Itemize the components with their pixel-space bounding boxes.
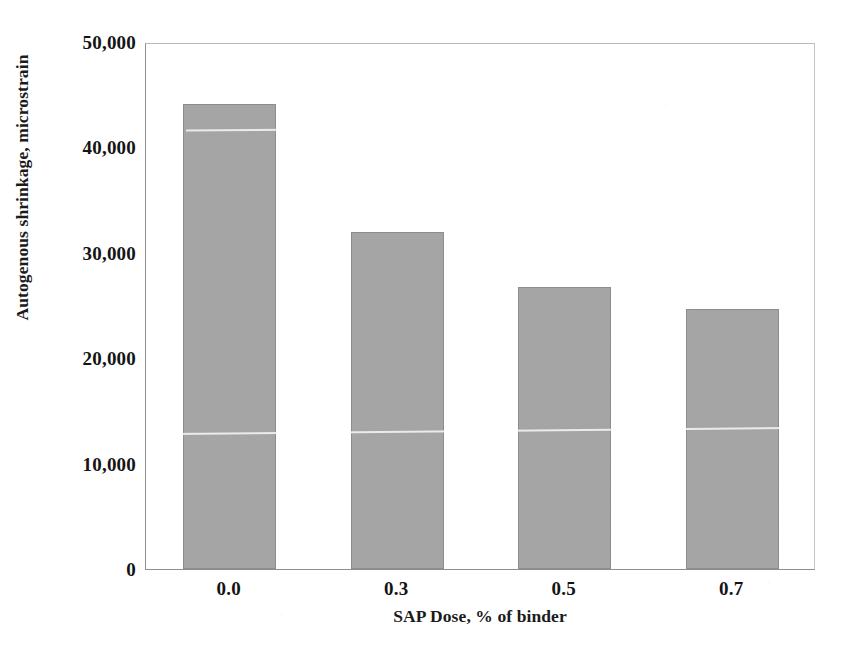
x-tick-label: 0.7 — [661, 578, 801, 600]
y-tick-label: 40,000 — [36, 137, 136, 159]
y-tick-label: 20,000 — [36, 348, 136, 370]
bar — [686, 309, 779, 569]
bar — [518, 287, 611, 569]
y-axis-ticks: 010,00020,00030,00040,00050,000 — [24, 43, 136, 570]
x-axis-title: SAP Dose, % of binder — [145, 606, 815, 627]
chart-page: Autogenous shrinkage, microstrain 010,00… — [0, 0, 854, 662]
y-tick-label: 50,000 — [36, 32, 136, 54]
y-tick-label: 10,000 — [36, 454, 136, 476]
plot-area — [145, 43, 815, 570]
bar — [183, 104, 276, 569]
y-tick-label: 0 — [36, 559, 136, 581]
y-tick-label: 30,000 — [36, 243, 136, 265]
x-tick-label: 0.5 — [494, 578, 634, 600]
bar — [351, 232, 444, 569]
x-tick-label: 0.3 — [326, 578, 466, 600]
x-tick-label: 0.0 — [159, 578, 299, 600]
